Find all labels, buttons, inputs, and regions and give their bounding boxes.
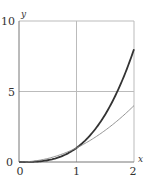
y-axis-label: y xyxy=(20,9,27,19)
y-tick-5: 5 xyxy=(8,86,15,99)
x-tick-2: 2 xyxy=(130,165,137,178)
x-tick-0: 0 xyxy=(17,165,24,178)
x-axis-label: x xyxy=(138,154,143,164)
y-tick-0: 0 xyxy=(6,156,13,169)
x-tick-1: 1 xyxy=(73,165,80,178)
y-tick-10: 10 xyxy=(1,15,15,28)
chart: 10 5 0 0 1 2 y x xyxy=(0,0,146,181)
